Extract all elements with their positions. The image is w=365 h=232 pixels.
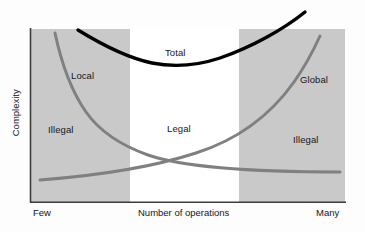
series-label-local: Local [71, 71, 94, 81]
chart-figure: Complexity Number of operations Few Many… [0, 0, 365, 232]
illegal-right-band [239, 29, 345, 202]
region-label-illegal-right: Illegal [293, 135, 319, 145]
x-tick-label-few: Few [33, 208, 51, 218]
x-tick-label-many: Many [316, 208, 339, 218]
region-label-legal: Legal [167, 124, 191, 134]
region-label-illegal-left: Illegal [48, 125, 74, 135]
complexity-vs-operations-chart [0, 0, 365, 232]
y-axis-title: Complexity [11, 81, 21, 145]
series-label-total: Total [165, 48, 186, 58]
series-label-global: Global [300, 75, 328, 85]
x-axis-title: Number of operations [138, 208, 229, 218]
